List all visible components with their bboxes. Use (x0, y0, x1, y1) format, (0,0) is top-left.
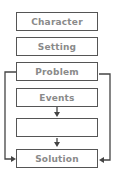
setting-box: Setting (16, 37, 98, 56)
problem-box: Problem (16, 62, 98, 81)
events-box: Events (16, 88, 98, 107)
blank-box (16, 118, 98, 137)
solution-label: Solution (35, 154, 79, 164)
right-arrowhead-icon (99, 157, 104, 163)
character-box: Character (16, 12, 98, 31)
problem-label: Problem (35, 67, 79, 77)
character-label: Character (31, 17, 83, 27)
right-connector-line (99, 74, 110, 160)
setting-label: Setting (38, 42, 77, 52)
events-label: Events (39, 93, 74, 103)
left-connector-line (5, 72, 16, 159)
solution-box: Solution (16, 149, 98, 168)
down-arrowhead-icon-1 (54, 112, 60, 117)
down-arrowhead-icon-2 (54, 142, 60, 147)
